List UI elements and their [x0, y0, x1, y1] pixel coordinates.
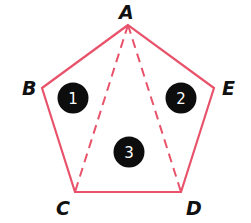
region-marker-1: 1	[58, 83, 89, 114]
region-marker-2: 2	[166, 83, 197, 114]
region-label-1: 1	[68, 90, 78, 108]
vertex-label-b: B	[22, 77, 36, 99]
diagram-svg: A B C D E 1 2 3	[0, 0, 251, 223]
pentagon-diagram: A B C D E 1 2 3	[0, 0, 251, 223]
region-marker-3: 3	[114, 137, 145, 168]
vertex-label-c: C	[56, 197, 70, 219]
region-label-2: 2	[176, 90, 186, 108]
vertex-label-e: E	[222, 77, 235, 99]
region-label-3: 3	[124, 144, 134, 162]
vertex-label-a: A	[117, 1, 134, 23]
vertex-label-d: D	[186, 197, 202, 219]
